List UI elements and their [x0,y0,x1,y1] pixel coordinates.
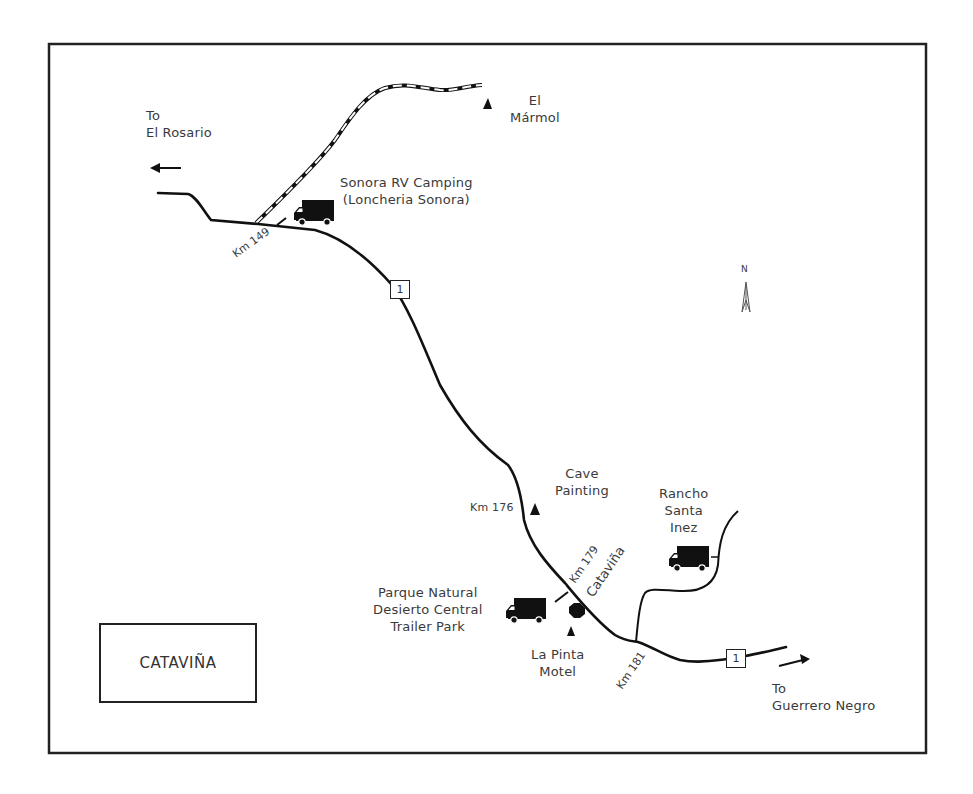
map-title: CATAVIÑA [139,654,216,672]
km-marker-149: Km 149 [230,225,272,260]
place-el-marmol-line1: El [510,92,560,109]
direction-west-label: To El Rosario [146,107,212,141]
place-rancho-line3: Inez [659,519,709,536]
km-marker-176: Km 176 [470,501,514,515]
place-el-marmol-line2: Mármol [510,109,560,126]
place-sonora-rv-line2: (Loncheria Sonora) [340,191,473,208]
north-label: N [741,262,748,276]
direction-east-line2: Guerrero Negro [772,697,875,714]
place-la-pinta: La Pinta Motel [531,646,584,680]
place-la-pinta-line2: Motel [531,663,584,680]
place-parque-line1: Parque Natural [373,584,482,601]
place-cave-painting: Cave Painting [555,465,609,499]
north-arrow-icon [742,282,750,312]
place-el-marmol: El Mármol [510,92,560,126]
highway-number: 1 [397,283,404,296]
arrow-right-icon [779,654,810,666]
place-cave-painting-line2: Painting [555,482,609,499]
landmark-triangle-icon [483,98,492,109]
place-cave-painting-line1: Cave [555,465,609,482]
place-sonora-rv: Sonora RV Camping (Loncheria Sonora) [340,174,473,208]
direction-west-line2: El Rosario [146,124,212,141]
arrow-left-icon [150,163,181,173]
landmark-triangle-icon [567,626,575,636]
rv-park-icon [506,598,546,623]
place-parque-natural: Parque Natural Desierto Central Trailer … [373,584,482,635]
place-rancho-santa-inez: Rancho Santa Inez [659,485,709,536]
landmark-triangle-icon [530,503,540,515]
spur-sonora-rv [277,218,286,225]
rv-park-icon [669,546,709,571]
place-sonora-rv-line1: Sonora RV Camping [340,174,473,191]
rv-park-icon [294,200,334,225]
direction-east-line1: To [772,680,875,697]
km-marker-181: Km 181 [614,649,648,691]
direction-west-line1: To [146,107,212,124]
place-la-pinta-line1: La Pinta [531,646,584,663]
direction-east-label: To Guerrero Negro [772,680,875,714]
highway-number: 1 [733,652,740,665]
place-rancho-line2: Santa [659,502,709,519]
place-parque-line3: Trailer Park [373,618,482,635]
highway-shield: 1 [390,280,410,299]
spur-parque-natural [555,592,568,602]
highway-shield: 1 [726,649,746,668]
map-title-box: CATAVIÑA [99,623,257,703]
place-rancho-line1: Rancho [659,485,709,502]
place-parque-line2: Desierto Central [373,601,482,618]
